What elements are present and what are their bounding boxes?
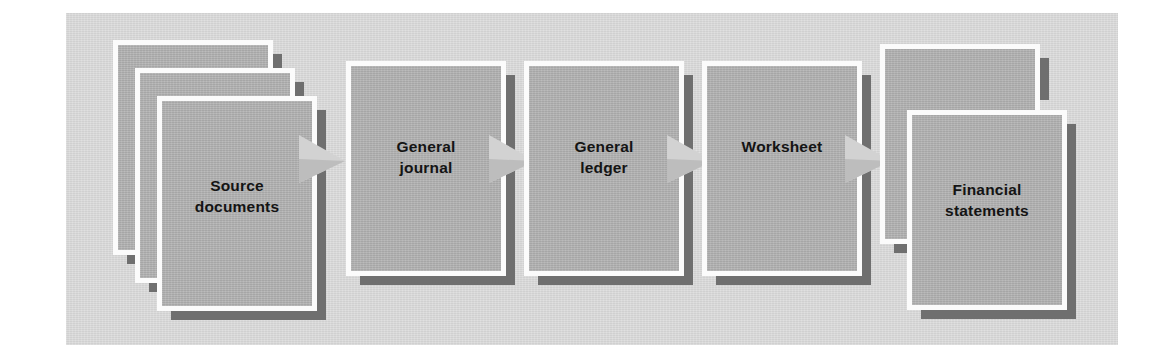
source-documents-label: Source documents (162, 175, 312, 217)
general-ledger-card: General ledger (524, 61, 684, 276)
financial-statements-card-front: Financial statements (907, 110, 1067, 310)
arrow-right-icon (299, 131, 345, 187)
arrow-right-glyph (299, 131, 345, 187)
financial-statements-label: Financial statements (912, 179, 1062, 221)
general-journal-card: General journal (346, 61, 506, 276)
general-ledger-label: General ledger (529, 136, 679, 178)
general-journal-label: General journal (351, 136, 501, 178)
diagram-canvas: Source documents General journal General… (0, 0, 1168, 363)
source-documents-card-front: Source documents (157, 96, 317, 311)
worksheet-label: Worksheet (707, 136, 857, 157)
worksheet-card: Worksheet (702, 61, 862, 276)
